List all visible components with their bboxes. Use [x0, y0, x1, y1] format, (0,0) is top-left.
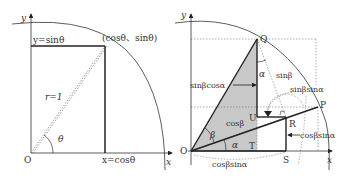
point-Q-label: Q — [260, 34, 267, 44]
point-R-label: R — [289, 119, 296, 129]
right-y-axis-label: y — [180, 10, 187, 20]
left-y-axis-label: y — [20, 13, 27, 23]
sinb-label: sinβ — [276, 71, 293, 80]
point-T-label: T — [249, 141, 255, 151]
y-sin-label: y=sinθ — [32, 35, 64, 45]
point-P-label: P — [320, 100, 326, 110]
point-S-label: S — [283, 155, 289, 165]
radius-label: r=1 — [45, 92, 63, 102]
point-U-label: U — [249, 113, 257, 123]
left-x-axis-label: x — [166, 157, 171, 167]
left-origin-label: O — [24, 155, 31, 165]
point-coordinate-label: (cosθ、sinθ) — [102, 33, 157, 43]
sinb-sina-label: sinβsinα — [290, 85, 324, 94]
point-O-label: O — [180, 146, 187, 156]
x-cos-label: x=cosθ — [102, 155, 135, 165]
diagram-canvas: y x O (cosθ、sinθ) y=sinθ x=cosθ r=1 θ — [0, 0, 347, 180]
right-x-axis-label: x — [327, 155, 332, 165]
left-unit-circle-diagram: y x O (cosθ、sinθ) y=sinθ x=cosθ r=1 θ — [12, 13, 172, 170]
beta-label: β — [209, 130, 215, 140]
radius-line-a — [31, 46, 105, 153]
sinb-sina-arrowhead — [264, 111, 272, 117]
theta-angle-arc — [44, 135, 53, 153]
alpha-angle-arc-top — [257, 60, 266, 62]
cosb-sina-bottom-label: cosβsinα — [212, 160, 248, 169]
sinb-cosa-label: sinβcosα — [190, 81, 226, 90]
alpha-top-label: α — [259, 69, 265, 79]
right-addition-formula-diagram: y x O Q P R S T U α α β sinβcosα sinβ si… — [175, 10, 336, 170]
cosb-label: cosβ — [226, 119, 244, 128]
cosb-sina-right-label: cosβsinα — [300, 131, 336, 140]
guide-os-arc — [194, 152, 286, 159]
theta-label: θ — [58, 134, 64, 144]
alpha-bottom-label: α — [232, 140, 238, 150]
